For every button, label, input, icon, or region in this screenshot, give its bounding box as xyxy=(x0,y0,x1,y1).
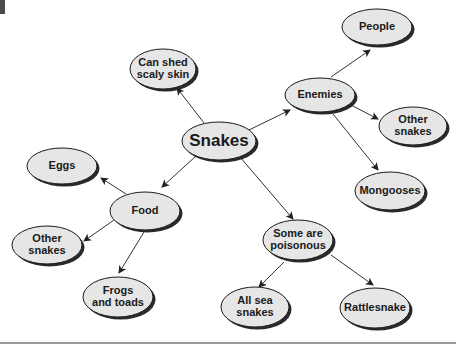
node-snakes xyxy=(182,122,259,163)
node-ellipse xyxy=(12,226,82,264)
edge-food-to-eggs xyxy=(101,178,126,194)
concept-map xyxy=(0,0,456,345)
edge-enemies-to-people xyxy=(331,50,370,77)
edge-snakes-to-poisonous xyxy=(240,157,293,219)
node-frogs xyxy=(83,277,156,320)
node-enemies xyxy=(285,78,358,115)
node-rattlesnake xyxy=(340,288,413,331)
edge-snakes-to-food xyxy=(162,156,196,187)
node-ellipse xyxy=(342,9,412,45)
node-ellipse xyxy=(110,192,180,230)
edge-food-to-frogs xyxy=(119,232,144,273)
node-poisonous xyxy=(263,220,336,263)
edge-enemies-to-other_snakes_enemy xyxy=(349,104,378,119)
node-ellipse xyxy=(285,78,355,112)
node-ellipse xyxy=(340,288,410,328)
node-ellipse xyxy=(221,287,289,327)
node-mongooses xyxy=(355,172,428,213)
node-all_sea xyxy=(221,287,292,330)
edge-enemies-to-mongooses xyxy=(333,114,378,170)
bottom-divider xyxy=(0,342,456,344)
edge-snakes-to-can_shed xyxy=(177,88,204,123)
node-can_shed xyxy=(130,49,199,92)
node-ellipse xyxy=(83,277,153,317)
node-ellipse xyxy=(355,172,425,210)
edge-snakes-to-enemies xyxy=(249,110,290,130)
node-eggs xyxy=(27,148,100,187)
node-ellipse xyxy=(263,220,333,260)
edge-poisonous-to-all_sea xyxy=(259,262,284,287)
node-other_snakes_food xyxy=(12,226,85,267)
edge-food-to-other_snakes_food xyxy=(84,220,114,241)
node-people xyxy=(342,9,415,48)
node-other_snakes_enemy xyxy=(379,107,450,148)
node-ellipse xyxy=(130,49,196,89)
node-food xyxy=(110,192,183,233)
node-layer xyxy=(12,9,450,331)
edge-poisonous-to-rattlesnake xyxy=(331,255,373,285)
node-ellipse xyxy=(27,148,97,184)
node-ellipse xyxy=(379,107,447,145)
node-ellipse xyxy=(182,122,256,160)
